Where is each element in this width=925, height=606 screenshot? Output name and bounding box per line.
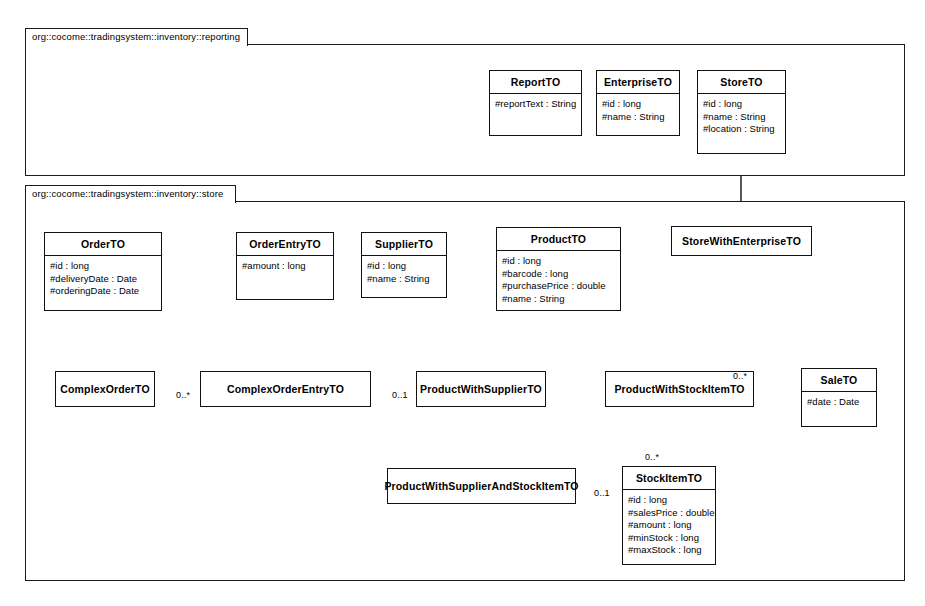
class-attrs-storeto: #id : long #name : String #location : St… — [698, 94, 785, 140]
class-box-reportto[interactable]: ReportTO #reportText : String — [489, 70, 582, 136]
attribute: #orderingDate : Date — [50, 285, 156, 298]
attribute: #id : long — [602, 98, 674, 111]
package-reporting-label: org::cocome::tradingsystem::inventory::r… — [25, 28, 248, 46]
class-box-orderto[interactable]: OrderTO #id : long #deliveryDate : Date … — [44, 232, 162, 311]
attribute: #maxStock : long — [628, 544, 710, 557]
class-attrs-orderentryto: #amount : long — [237, 256, 333, 277]
class-name-complexorderto: ComplexOrderTO — [54, 383, 155, 395]
class-box-storeto[interactable]: StoreTO #id : long #name : String #locat… — [697, 70, 786, 154]
class-box-stockitemto[interactable]: StockItemTO #id : long #salesPrice : dou… — [622, 466, 716, 565]
class-attrs-stockitemto: #id : long #salesPrice : double #amount … — [623, 490, 715, 561]
attribute: #id : long — [50, 260, 156, 273]
attribute: #name : String — [703, 111, 780, 124]
class-name-orderentryto: OrderEntryTO — [237, 233, 333, 256]
attribute: #name : String — [367, 273, 441, 286]
class-box-enterpriseto[interactable]: EnterpriseTO #id : long #name : String — [596, 70, 680, 136]
class-name-productwithstockitemto: ProductWithStockItemTO — [608, 383, 750, 395]
attribute: #location : String — [703, 123, 780, 136]
attribute: #purchasePrice : double — [502, 280, 615, 293]
attribute: #minStock : long — [628, 532, 710, 545]
class-attrs-supplierto: #id : long #name : String — [362, 256, 446, 289]
class-box-orderentryto[interactable]: OrderEntryTO #amount : long — [236, 232, 334, 300]
multiplicity-sale-to-product-stockitem: 0..* — [733, 371, 747, 381]
attribute: #name : String — [602, 111, 674, 124]
attribute: #id : long — [703, 98, 780, 111]
class-box-productwithstockitemto[interactable]: ProductWithStockItemTO — [605, 371, 754, 407]
attribute: #id : long — [628, 494, 710, 507]
class-box-complexorderto[interactable]: ComplexOrderTO — [55, 371, 155, 407]
attribute: #barcode : long — [502, 268, 615, 281]
multiplicity-entry-to-product-supplier: 0..1 — [392, 390, 408, 400]
attribute: #id : long — [367, 260, 441, 273]
class-name-productto: ProductTO — [497, 228, 620, 251]
class-box-complexorderentryto[interactable]: ComplexOrderEntryTO — [200, 371, 371, 407]
class-box-productwithsupplierto[interactable]: ProductWithSupplierTO — [416, 371, 546, 407]
class-attrs-productto: #id : long #barcode : long #purchasePric… — [497, 251, 620, 309]
class-name-productwithsupplierto: ProductWithSupplierTO — [414, 383, 548, 395]
attribute: #name : String — [502, 293, 615, 306]
attribute: #reportText : String — [495, 98, 576, 111]
class-name-enterpriseto: EnterpriseTO — [597, 71, 679, 94]
attribute: #id : long — [502, 255, 615, 268]
attribute: #amount : long — [242, 260, 328, 273]
class-name-reportto: ReportTO — [490, 71, 581, 94]
class-attrs-reportto: #reportText : String — [490, 94, 581, 115]
package-store-label: org::cocome::tradingsystem::inventory::s… — [25, 185, 236, 203]
class-box-productwithsupplierandstockitemto[interactable]: ProductWithSupplierAndStockItemTO — [387, 468, 576, 504]
class-name-saleto: SaleTO — [802, 369, 876, 392]
class-box-saleto[interactable]: SaleTO #date : Date — [801, 368, 877, 427]
uml-class-diagram: org::cocome::tradingsystem::inventory::r… — [0, 0, 925, 606]
multiplicity-order-to-entry: 0..* — [176, 390, 190, 400]
class-name-orderto: OrderTO — [45, 233, 161, 256]
class-attrs-enterpriseto: #id : long #name : String — [597, 94, 679, 127]
class-attrs-orderto: #id : long #deliveryDate : Date #orderin… — [45, 256, 161, 302]
class-name-storewithenterpriseto: StoreWithEnterpriseTO — [676, 235, 807, 247]
class-name-complexorderentryto: ComplexOrderEntryTO — [221, 383, 350, 395]
class-box-supplierto[interactable]: SupplierTO #id : long #name : String — [361, 232, 447, 298]
class-box-productto[interactable]: ProductTO #id : long #barcode : long #pu… — [496, 227, 621, 311]
attribute: #deliveryDate : Date — [50, 273, 156, 286]
class-name-supplierto: SupplierTO — [362, 233, 446, 256]
multiplicity-product-stockitem-to-stockitem: 0..* — [645, 452, 659, 462]
multiplicity-pwsasi-to-stockitem: 0..1 — [594, 488, 610, 498]
class-name-productwithsupplierandstockitemto: ProductWithSupplierAndStockItemTO — [378, 480, 584, 492]
class-attrs-saleto: #date : Date — [802, 392, 876, 413]
attribute: #salesPrice : double — [628, 507, 710, 520]
attribute: #amount : long — [628, 519, 710, 532]
class-box-storewithenterpriseto[interactable]: StoreWithEnterpriseTO — [671, 226, 812, 256]
attribute: #date : Date — [807, 396, 871, 409]
class-name-stockitemto: StockItemTO — [623, 467, 715, 490]
class-name-storeto: StoreTO — [698, 71, 785, 94]
